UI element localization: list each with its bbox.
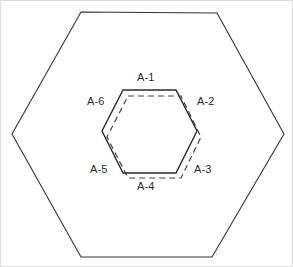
label-a-5: A-5 (90, 164, 107, 175)
diagram-canvas (1, 1, 293, 267)
label-a-1: A-1 (137, 72, 154, 83)
label-a-6: A-6 (87, 96, 104, 107)
inner-hexagon-dashed (107, 96, 201, 178)
label-a-2: A-2 (197, 96, 214, 107)
hexagon-diagram: A-1 A-2 A-3 A-4 A-5 A-6 (0, 0, 293, 267)
inner-hexagon-solid (102, 90, 197, 173)
label-a-3: A-3 (194, 164, 211, 175)
label-a-4: A-4 (137, 181, 154, 192)
outer-hexagon (12, 12, 284, 257)
